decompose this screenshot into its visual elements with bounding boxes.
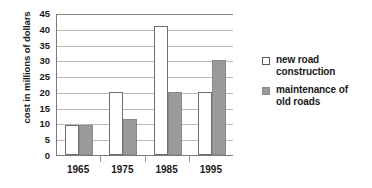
y-tick-label: 25 bbox=[26, 72, 50, 82]
y-tick-label: 30 bbox=[26, 57, 50, 67]
bar-1995-new-road-construction bbox=[198, 92, 212, 155]
bars-layer bbox=[57, 14, 233, 155]
y-tick-label: 5 bbox=[26, 135, 50, 145]
legend-swatch-icon bbox=[262, 87, 270, 95]
legend-label-line2: construction bbox=[276, 66, 335, 77]
y-tick-label: 35 bbox=[26, 41, 50, 51]
y-tick-label: 0 bbox=[26, 151, 50, 161]
bar-chart: cost in millions of dollars 051015202530… bbox=[0, 0, 372, 188]
y-tick-label: 20 bbox=[26, 88, 50, 98]
y-tick-label: 45 bbox=[26, 9, 50, 19]
x-tick-label-1965: 1965 bbox=[67, 164, 89, 175]
x-axis-tick-marks bbox=[56, 156, 233, 163]
x-tick-label-1975: 1975 bbox=[111, 164, 133, 175]
legend-label-line1: new road bbox=[276, 54, 319, 65]
legend-swatch-icon bbox=[262, 57, 270, 65]
x-axis-tick-labels: 1965197519851995 bbox=[56, 164, 233, 182]
y-tick-label: 40 bbox=[26, 25, 50, 35]
x-tick-mark bbox=[100, 156, 101, 162]
plot-area bbox=[56, 14, 233, 156]
y-tick-label: 15 bbox=[26, 104, 50, 114]
y-tick-label: 10 bbox=[26, 120, 50, 130]
x-tick-mark bbox=[189, 156, 190, 162]
legend-label: maintenance ofold roads bbox=[276, 84, 348, 107]
bar-1995-maintenance-of-old-roads bbox=[212, 60, 226, 155]
legend-label-line2: old roads bbox=[276, 96, 320, 107]
bar-group bbox=[57, 14, 234, 155]
x-tick-mark bbox=[145, 156, 146, 162]
legend-label: new roadconstruction bbox=[276, 54, 335, 77]
x-tick-label-1985: 1985 bbox=[156, 164, 178, 175]
x-tick-label-1995: 1995 bbox=[200, 164, 222, 175]
legend-entry-maintenance-of-old-roads[interactable]: maintenance ofold roads bbox=[262, 84, 370, 107]
y-axis-tick-labels: 051015202530354045 bbox=[26, 14, 50, 156]
legend-entry-new-road-construction[interactable]: new roadconstruction bbox=[262, 54, 370, 77]
legend-label-line1: maintenance of bbox=[276, 84, 348, 95]
legend: new roadconstructionmaintenance ofold ro… bbox=[262, 54, 370, 114]
